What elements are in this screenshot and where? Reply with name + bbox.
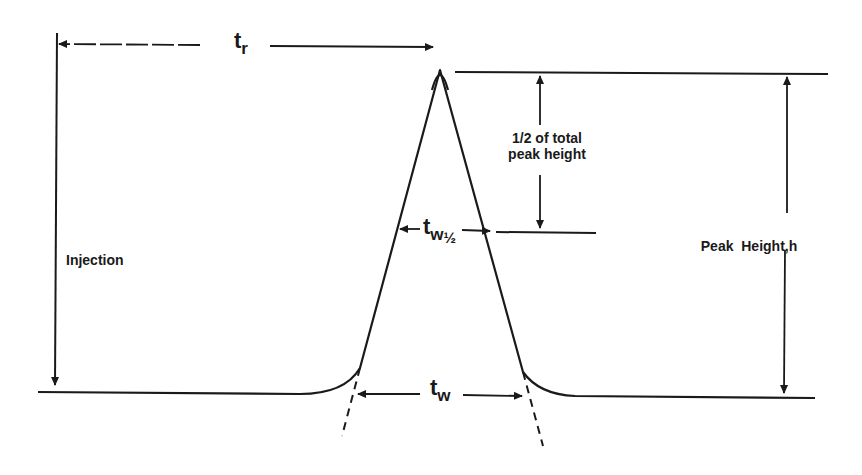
- half-width-arrow-right: [462, 230, 490, 231]
- half-height-reference-line: [496, 232, 596, 233]
- half-width-subscript: w: [430, 225, 443, 244]
- injection-arrow: [55, 33, 57, 385]
- peak-top-reference-line: [455, 72, 828, 74]
- peak-height-arrow-down: [784, 250, 785, 393]
- half-height-label-line1: 1/2 of total: [494, 130, 600, 146]
- base-width-label: tw: [430, 375, 451, 400]
- base-width-arrow-right: [463, 395, 522, 396]
- injection-label: Injection: [66, 252, 124, 268]
- half-height-label-line2: peak height: [494, 146, 600, 162]
- half-width-fraction: ½: [444, 229, 457, 246]
- retention-time-arrow-right: [270, 46, 433, 47]
- half-width-label: tw½: [423, 214, 456, 239]
- retention-time-subscript: r: [241, 39, 248, 58]
- retention-time-label: tr: [234, 28, 248, 53]
- half-height-label: 1/2 of total peak height: [494, 130, 600, 162]
- injection-text: Injection: [66, 252, 124, 268]
- peak-height-label: Peak Height,h: [693, 222, 797, 254]
- peak-height-text: Peak Height,h: [701, 238, 797, 254]
- retention-time-arrow-left: [59, 44, 200, 45]
- base-width-subscript: w: [437, 386, 450, 405]
